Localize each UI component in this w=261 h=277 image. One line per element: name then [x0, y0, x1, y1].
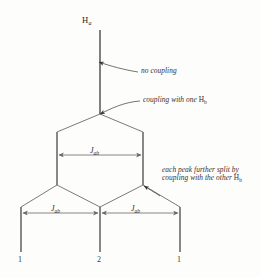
peak-intensity-center: 2: [97, 256, 101, 264]
jab-upper-label: Jab: [90, 147, 99, 156]
peak-intensity-left-value: 1: [18, 255, 22, 264]
leader-further-split: [144, 186, 160, 196]
annotation-further-split: each peak further split by coupling with…: [162, 166, 242, 183]
annotation-further-split-line2-text: coupling with the other: [162, 173, 234, 182]
peak-intensity-center-value: 2: [97, 255, 101, 264]
level2-branch-group: [21, 185, 180, 207]
diagram-canvas: [0, 0, 261, 277]
annotation-no-coupling-text: no coupling: [141, 66, 177, 75]
jab-lower-right-subscript: ab: [135, 208, 141, 214]
level2-branch-left-inner: [57, 185, 100, 207]
annotation-further-split-subscript: b: [239, 176, 242, 182]
peak-intensity-right-value: 1: [177, 255, 181, 264]
annotation-no-coupling: no coupling: [141, 67, 177, 75]
jab-lower-left-label: Jab: [51, 205, 60, 214]
annotation-coupling-one-hb: coupling with one Hb: [143, 96, 207, 105]
leader-lines-group: [99, 62, 160, 196]
splitting-diagram-figure: Ha no coupling coupling with one Hb each…: [0, 0, 261, 277]
level1-branch-group: [57, 114, 143, 185]
species-subscript: a: [88, 20, 91, 26]
jab-upper-subscript: ab: [94, 150, 100, 156]
annotation-coupling-one-hb-subscript: b: [204, 99, 207, 105]
leader-coupling-one-hb: [100, 101, 140, 114]
jab-lower-left-subscript: ab: [55, 208, 61, 214]
annotation-further-split-line2: coupling with the other Hb: [162, 174, 242, 183]
level1-branch-left: [57, 114, 100, 132]
leader-no-coupling: [99, 62, 138, 72]
level1-branch-right: [100, 114, 143, 132]
peak-intensity-right: 1: [177, 256, 181, 264]
final-peaks-group: [21, 207, 180, 252]
species-label-ha: Ha: [82, 16, 92, 26]
jab-lower-right-label: Jab: [131, 205, 140, 214]
annotation-coupling-one-hb-text: coupling with one: [143, 95, 199, 104]
level2-branch-right-outer: [143, 185, 180, 207]
peak-intensity-left: 1: [18, 256, 22, 264]
level2-branch-right-inner: [100, 185, 143, 207]
